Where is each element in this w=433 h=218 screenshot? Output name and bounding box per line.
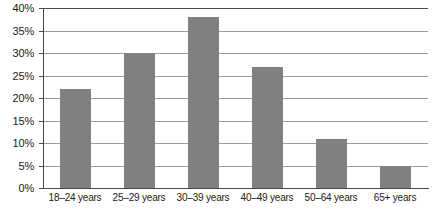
bar — [124, 53, 155, 188]
bars-layer — [43, 8, 428, 188]
y-axis-line — [43, 8, 44, 189]
bar-chart: 40% 35% 30% 25% 20% 15% 10% 5% 0% — [0, 0, 433, 218]
x-axis: 18–24 years 25–29 years 30–39 years 40–4… — [43, 191, 428, 211]
y-tick-label: 20% — [0, 93, 34, 104]
y-tick-label: 15% — [0, 116, 34, 127]
x-tick-label: 30–39 years — [171, 191, 235, 204]
x-tick-label: 25–29 years — [107, 191, 171, 204]
y-tick-label: 10% — [0, 138, 34, 149]
y-tick-label: 5% — [0, 161, 34, 172]
x-tick-label: 50–64 years — [299, 191, 363, 204]
bar — [188, 17, 219, 188]
bar — [60, 89, 91, 188]
x-tick-label: 40–49 years — [235, 191, 299, 204]
bar — [316, 139, 347, 189]
x-axis-line — [43, 188, 429, 189]
y-tick-label: 40% — [0, 3, 34, 14]
x-tick-label: 65+ years — [363, 191, 427, 204]
bar — [380, 166, 411, 189]
y-tick-label: 30% — [0, 48, 34, 59]
y-axis: 40% 35% 30% 25% 20% 15% 10% 5% 0% — [0, 0, 39, 218]
x-tick-label: 18–24 years — [43, 191, 107, 204]
bar — [252, 67, 283, 189]
y-tick-label: 0% — [0, 183, 34, 194]
plot-area — [43, 8, 428, 188]
y-tick-label: 35% — [0, 26, 34, 37]
y-tick-label: 25% — [0, 71, 34, 82]
